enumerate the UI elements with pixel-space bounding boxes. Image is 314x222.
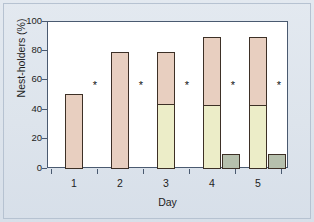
bar-day4-lower <box>203 105 221 169</box>
y-tick-mark-0 <box>42 168 47 169</box>
bar-day3-lower <box>157 104 175 169</box>
bar-day1-upper <box>65 94 83 169</box>
bar-day4-secondary <box>222 154 240 169</box>
x-tick-label-4: 4 <box>197 177 227 189</box>
x-tick-mark-0 <box>51 169 52 174</box>
significance-asterisk-day1: * <box>90 80 100 91</box>
y-tick-label-80: 80 <box>16 45 42 55</box>
x-tick-mark-4 <box>235 169 236 174</box>
x-tick-label-5: 5 <box>243 177 273 189</box>
chart-figure: Nest-holders (%) 100 80 60 40 20 0 * * *… <box>0 0 314 222</box>
x-tick-mark-1 <box>97 169 98 174</box>
significance-asterisk-day2: * <box>136 80 146 91</box>
x-tick-mark-3 <box>189 169 190 174</box>
significance-asterisk-day5: * <box>274 80 284 91</box>
x-tick-mark-2 <box>143 169 144 174</box>
x-tick-label-2: 2 <box>105 177 135 189</box>
x-tick-label-3: 3 <box>151 177 181 189</box>
bar-day3-upper <box>157 52 175 105</box>
x-tick-mark-5 <box>281 169 282 174</box>
y-tick-label-20: 20 <box>16 133 42 143</box>
significance-asterisk-day4: * <box>228 80 238 91</box>
bar-day5-lower <box>249 105 267 169</box>
y-tick-label-60: 60 <box>16 74 42 84</box>
bar-day2-upper <box>111 52 129 169</box>
x-axis-title: Day <box>47 196 288 208</box>
y-tick-label-0: 0 <box>16 163 42 173</box>
bar-day5-upper <box>249 37 267 106</box>
significance-asterisk-day3: * <box>182 80 192 91</box>
y-tick-label-40: 40 <box>16 104 42 114</box>
y-tick-label-100: 100 <box>16 16 42 26</box>
bar-day4-upper <box>203 37 221 106</box>
bar-day5-secondary <box>268 154 286 169</box>
x-tick-label-1: 1 <box>59 177 89 189</box>
